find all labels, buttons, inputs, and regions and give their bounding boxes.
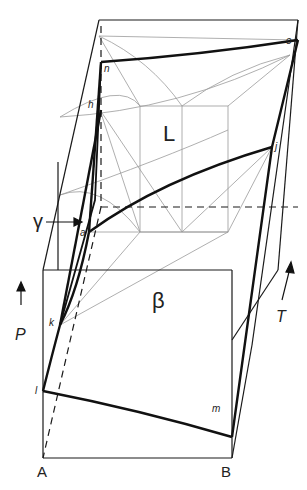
component-a-label: A [37,463,47,480]
component-b-label: B [221,463,231,480]
point-o-label: o [286,35,292,46]
point-l-label: l [35,385,38,396]
point-k-label: k [49,317,55,328]
point-n-label: n [104,63,110,74]
point-a-label: a [80,227,86,238]
phase-l-label: L [163,121,175,146]
gamma-arrow [46,218,82,226]
point-m-label: m [212,403,220,414]
axis-p-label: P [15,326,26,343]
t-axis-arrow-icon [282,262,294,300]
axis-t-label: T [276,308,287,325]
phase-gamma-label: γ [33,210,43,232]
phase-diagram: L β γ P T A B n o h j a k l m [0,0,307,490]
phase-beta-label: β [152,288,165,313]
point-h-label: h [88,99,94,110]
p-axis-arrow-icon [17,282,25,305]
